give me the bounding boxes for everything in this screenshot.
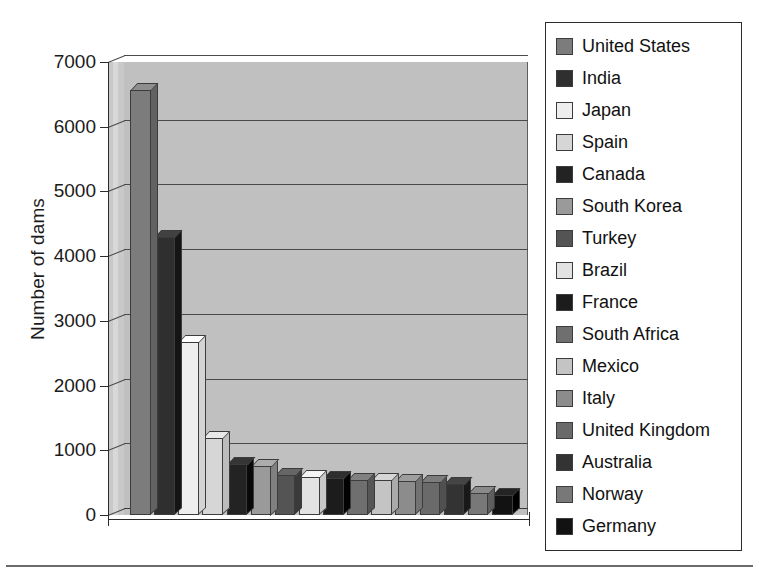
- bar-face-side: [198, 335, 206, 515]
- legend-item-italy[interactable]: Italy: [556, 382, 733, 414]
- legend-item-mexico[interactable]: Mexico: [556, 350, 733, 382]
- legend-swatch-icon: [556, 486, 573, 503]
- bar-face-side: [222, 430, 230, 515]
- legend-item-label: South Africa: [582, 325, 679, 343]
- legend-item-india[interactable]: India: [556, 62, 733, 94]
- bar-series: [124, 62, 528, 515]
- bar-face-front: [130, 90, 151, 515]
- legend-item-label: South Korea: [582, 197, 682, 215]
- legend-item-south-africa[interactable]: South Africa: [556, 318, 733, 350]
- legend-swatch-icon: [556, 390, 573, 407]
- legend-swatch-icon: [556, 326, 573, 343]
- y-axis-tick-label: 1000: [24, 440, 96, 459]
- legend-swatch-icon: [556, 102, 573, 119]
- legend-swatch-icon: [556, 230, 573, 247]
- legend-item-label: India: [582, 69, 621, 87]
- x-axis-end-tick: [529, 512, 530, 526]
- legend-item-germany[interactable]: Germany: [556, 510, 733, 542]
- x-axis-origin-tick: [108, 512, 109, 526]
- legend-item-united-states[interactable]: United States: [556, 30, 733, 62]
- legend-item-label: Spain: [582, 133, 628, 151]
- bar-face-side: [174, 230, 182, 515]
- y-axis-tick-label: 2000: [24, 376, 96, 395]
- legend-item-brazil[interactable]: Brazil: [556, 254, 733, 286]
- legend-item-label: United States: [582, 37, 690, 55]
- legend-item-canada[interactable]: Canada: [556, 158, 733, 190]
- y-axis-tick-label: 0: [24, 505, 96, 524]
- x-axis-line: [108, 519, 530, 520]
- y-axis-tick-label: 3000: [24, 311, 96, 330]
- legend-item-label: Brazil: [582, 261, 627, 279]
- plot-floor: [108, 515, 528, 529]
- legend-swatch-icon: [556, 38, 573, 55]
- legend-item-label: Italy: [582, 389, 615, 407]
- legend-item-turkey[interactable]: Turkey: [556, 222, 733, 254]
- legend-item-label: Australia: [582, 453, 652, 471]
- legend-item-australia[interactable]: Australia: [556, 446, 733, 478]
- legend-item-label: France: [582, 293, 638, 311]
- legend-item-label: United Kingdom: [582, 421, 710, 439]
- legend-swatch-icon: [556, 358, 573, 375]
- dam-count-bar-chart: Number of dams 7000600050004000300020001…: [0, 0, 759, 580]
- legend-swatch-icon: [556, 134, 573, 151]
- legend-item-france[interactable]: France: [556, 286, 733, 318]
- legend-item-label: Germany: [582, 517, 656, 535]
- legend-swatch-icon: [556, 422, 573, 439]
- legend-item-norway[interactable]: Norway: [556, 478, 733, 510]
- legend-swatch-icon: [556, 518, 573, 535]
- y-axis-tick-labels: 70006000500040003000200010000: [20, 0, 96, 580]
- legend-item-label: Mexico: [582, 357, 639, 375]
- legend-swatch-icon: [556, 294, 573, 311]
- legend-item-label: Norway: [582, 485, 643, 503]
- y-axis-tick-label: 4000: [24, 246, 96, 265]
- y-axis-line: [108, 62, 109, 519]
- y-axis-tick-label: 5000: [24, 181, 96, 200]
- gridline: [124, 55, 528, 56]
- legend-swatch-icon: [556, 262, 573, 279]
- bar-united-states: [130, 90, 151, 515]
- legend-item-spain[interactable]: Spain: [556, 126, 733, 158]
- bar-face-side: [246, 456, 254, 515]
- legend-swatch-icon: [556, 198, 573, 215]
- y-axis-tick-label: 6000: [24, 117, 96, 136]
- legend: United StatesIndiaJapanSpainCanadaSouth …: [545, 22, 742, 551]
- y-axis-tick-label: 7000: [24, 52, 96, 71]
- bar-face-side: [150, 82, 158, 515]
- legend-swatch-icon: [556, 166, 573, 183]
- page-divider-rule: [6, 565, 753, 567]
- legend-swatch-icon: [556, 454, 573, 471]
- legend-swatch-icon: [556, 70, 573, 87]
- legend-item-label: Canada: [582, 165, 645, 183]
- legend-item-japan[interactable]: Japan: [556, 94, 733, 126]
- legend-item-south-korea[interactable]: South Korea: [556, 190, 733, 222]
- legend-item-united-kingdom[interactable]: United Kingdom: [556, 414, 733, 446]
- legend-item-label: Turkey: [582, 229, 636, 247]
- legend-item-label: Japan: [582, 101, 631, 119]
